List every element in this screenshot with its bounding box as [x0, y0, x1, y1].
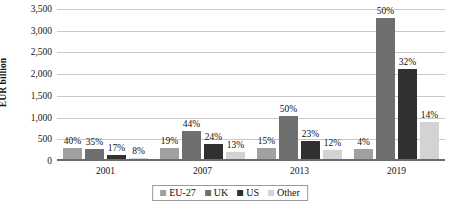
bar-wrapper: 12% [323, 9, 342, 161]
bar-groups: 40%35%17%8%200119%44%24%13%200715%50%23%… [57, 9, 445, 161]
bar-wrapper: 50% [376, 9, 395, 161]
chart-legend: EU-27UKUSOther [152, 185, 308, 201]
bar-wrapper: 4% [354, 9, 373, 161]
bar[interactable] [420, 122, 439, 161]
bar-data-label: 19% [161, 137, 178, 147]
bar-data-label: 44% [183, 120, 200, 130]
bar-data-label: 12% [324, 139, 341, 149]
y-axis-tick-label: 1,500 [31, 91, 52, 101]
x-axis-line [57, 159, 445, 161]
bar-chart: EUR billion 3,5003,0002,5002,0001,5001,0… [0, 0, 460, 213]
y-axis-tick-label: 3,500 [31, 4, 52, 14]
legend-label: US [246, 187, 259, 198]
bar-group: 15%50%23%12%2013 [251, 9, 348, 161]
bar-data-label: 24% [205, 133, 222, 143]
bar[interactable] [398, 69, 417, 161]
bar-wrapper: 13% [226, 9, 245, 161]
legend-item-other[interactable]: Other [268, 187, 300, 198]
bar-wrapper: 15% [257, 9, 276, 161]
bar-data-label: 40% [64, 137, 81, 147]
bar-data-label: 35% [86, 138, 103, 148]
bars: 15%50%23%12% [251, 9, 348, 161]
legend-label: EU-27 [169, 187, 196, 198]
bar-wrapper: 35% [85, 9, 104, 161]
bar-data-label: 4% [357, 138, 370, 148]
bars: 4%50%32%14% [348, 9, 445, 161]
bar-wrapper: 14% [420, 9, 439, 161]
bar-wrapper: 17% [107, 9, 126, 161]
bar-data-label: 50% [280, 105, 297, 115]
y-axis-title: EUR billion [0, 0, 12, 165]
y-axis-tick-label: 0 [47, 156, 52, 166]
bar[interactable] [376, 18, 395, 161]
bars: 40%35%17%8% [57, 9, 154, 161]
y-axis-tick-label: 1,000 [31, 113, 52, 123]
y-axis-tick-label: 500 [38, 134, 52, 144]
x-axis-tick-label: 2013 [251, 166, 348, 176]
y-axis-tick-label: 3,000 [31, 26, 52, 36]
bar-data-label: 17% [108, 144, 125, 154]
bar-wrapper: 8% [129, 9, 148, 161]
x-axis-tick-label: 2019 [348, 166, 445, 176]
bar-data-label: 23% [302, 130, 319, 140]
bar-data-label: 8% [132, 147, 145, 157]
x-axis-tick-label: 2007 [154, 166, 251, 176]
bar-wrapper: 40% [63, 9, 82, 161]
bar-data-label: 14% [421, 111, 438, 121]
bar-group: 40%35%17%8%2001 [57, 9, 154, 161]
legend-item-eu-27[interactable]: EU-27 [160, 187, 196, 198]
bar[interactable] [182, 131, 201, 161]
bar-group: 4%50%32%14%2019 [348, 9, 445, 161]
bar-wrapper: 23% [301, 9, 320, 161]
legend-swatch-icon [268, 190, 274, 196]
plot-area: 3,5003,0002,5002,0001,5001,0005000 40%35… [57, 9, 445, 161]
bar[interactable] [301, 141, 320, 161]
legend-item-us[interactable]: US [237, 187, 259, 198]
legend-swatch-icon [205, 190, 211, 196]
bar-data-label: 15% [258, 137, 275, 147]
bar[interactable] [279, 116, 298, 161]
bar-wrapper: 50% [279, 9, 298, 161]
bar-group: 19%44%24%13%2007 [154, 9, 251, 161]
bar-data-label: 13% [227, 141, 244, 151]
bar-data-label: 50% [377, 7, 394, 17]
bar-data-label: 32% [399, 58, 416, 68]
bars: 19%44%24%13% [154, 9, 251, 161]
bar-wrapper: 32% [398, 9, 417, 161]
y-axis-tick-label: 2,000 [31, 69, 52, 79]
legend-item-uk[interactable]: UK [205, 187, 228, 198]
x-axis-tick-label: 2001 [57, 166, 154, 176]
y-axis-tick-label: 2,500 [31, 47, 52, 57]
legend-swatch-icon [237, 190, 243, 196]
legend-label: UK [214, 187, 228, 198]
bar-wrapper: 19% [160, 9, 179, 161]
bar-wrapper: 44% [182, 9, 201, 161]
legend-label: Other [277, 187, 300, 198]
legend-swatch-icon [160, 190, 166, 196]
bar-wrapper: 24% [204, 9, 223, 161]
